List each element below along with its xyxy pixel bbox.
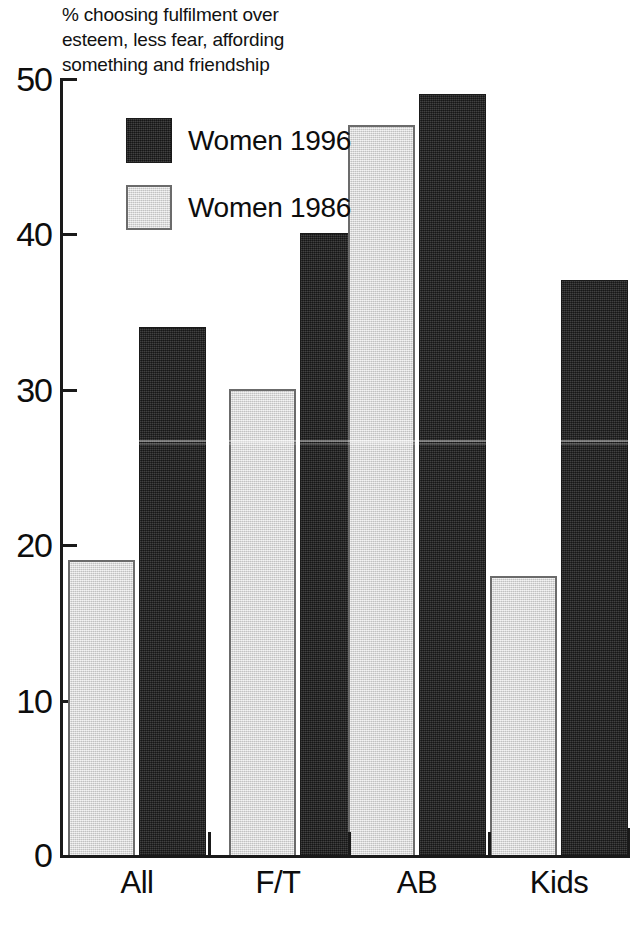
bar-ab-women-1986 [348, 125, 415, 857]
y-tick-label-50: 50 [0, 62, 52, 96]
x-tick-label-kids: Kids [499, 866, 619, 900]
bar-kids-women-1986 [490, 576, 557, 857]
x-tick-3 [488, 832, 491, 858]
bar-ft-women-1986 [229, 389, 296, 857]
x-axis-line [60, 855, 630, 858]
x-axis-right-cap [627, 828, 630, 858]
legend-swatch-women-1986 [126, 185, 172, 230]
y-tick-label-20: 20 [0, 528, 52, 562]
legend-label-women-1996: Women 1996 [188, 120, 351, 162]
bar-chart: % choosing fulfilment over esteem, less … [0, 0, 643, 925]
bar-ab-women-1996 [419, 94, 486, 857]
y-axis-line [60, 78, 63, 857]
y-tick-label-10: 10 [0, 684, 52, 718]
y-tick-label-30: 30 [0, 373, 52, 407]
y-tick-label-0: 0 [0, 838, 52, 872]
bar-kids-women-1996 [561, 280, 628, 857]
x-tick-label-ab: AB [357, 866, 477, 900]
bar-all-women-1996 [139, 327, 206, 857]
legend-label-women-1986: Women 1986 [188, 187, 351, 229]
x-tick-label-all: All [77, 866, 197, 900]
x-tick-label-ft: F/T [218, 866, 338, 900]
x-tick-1 [208, 832, 211, 858]
y-tick-label-40: 40 [0, 217, 52, 251]
x-tick-2 [348, 832, 351, 858]
legend-swatch-women-1996 [126, 118, 172, 163]
bar-all-women-1986 [68, 560, 135, 857]
y-axis-top-cap [60, 78, 76, 81]
